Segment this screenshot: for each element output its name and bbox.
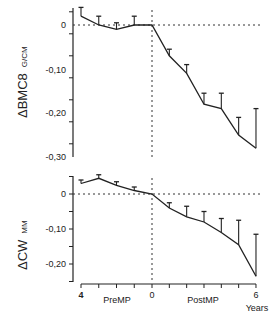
x-label-right: 6 <box>253 290 258 300</box>
x-label-left: 4 <box>78 290 83 300</box>
series-line <box>81 16 256 148</box>
top-ylabel: ΔBMC8G/CM <box>15 46 30 118</box>
top-ytick-1: -0,10 <box>45 65 66 75</box>
bottom-ytick-0: 0 <box>61 189 66 199</box>
bottom-ytick-2: -0,20 <box>45 259 66 269</box>
postmp-label: PostMP <box>187 295 219 305</box>
figure: 0 -0,10 -0,20 -0,30 ΔBMC8G/CM 0 -0,10 -0… <box>0 0 273 318</box>
top-panel: 0 -0,10 -0,20 -0,30 ΔBMC8G/CM <box>15 7 262 162</box>
premp-label: PreMP <box>103 295 131 305</box>
chart-svg: 0 -0,10 -0,20 -0,30 ΔBMC8G/CM 0 -0,10 -0… <box>0 0 273 318</box>
top-series <box>79 7 259 148</box>
x-label-mid: 0 <box>149 290 154 300</box>
top-ytick-0: 0 <box>61 20 66 30</box>
series-line <box>81 178 256 276</box>
top-ytick-3: -0,30 <box>45 152 66 162</box>
bottom-ylabel: ΔCWMM <box>15 220 30 270</box>
bottom-panel: 0 -0,10 -0,20 4 0 6 PreMP PostMP Years Δ… <box>15 175 269 313</box>
bottom-series <box>79 175 259 277</box>
top-ytick-2: -0,20 <box>45 108 66 118</box>
years-label: Years <box>246 303 269 313</box>
bottom-ytick-1: -0,10 <box>45 224 66 234</box>
